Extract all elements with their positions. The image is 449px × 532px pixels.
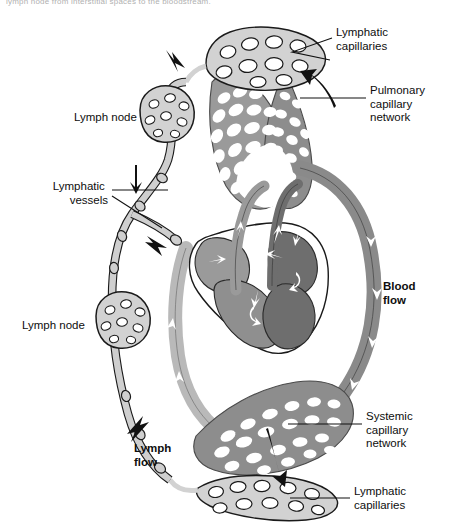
label-systemic-capillary-network: Systemic capillary network	[366, 410, 416, 449]
label-lymphatic-capillaries-top: Lymphatic capillaries	[336, 26, 391, 52]
label-lymph-node-lower: Lymph node	[22, 319, 85, 331]
lymph-node-lower-graphic	[96, 292, 150, 349]
label-lymphatic-vessels: Lymphatic vessels	[53, 180, 108, 206]
label-blood-flow: Blood flow	[383, 280, 419, 306]
label-lymphatic-capillaries-bottom: Lymphatic capillaries	[354, 485, 409, 511]
systemic-capillary-network-graphic	[194, 381, 354, 476]
label-lymph-flow: Lymph flow	[134, 442, 174, 468]
anatomy-diagram: Lymphatic capillaries Pulmonary capillar…	[0, 0, 449, 532]
lymph-node-upper-graphic	[140, 86, 194, 143]
lymphatic-capillaries-top-graphic	[186, 27, 325, 90]
label-pulmonary-capillary-network: Pulmonary capillary network	[370, 84, 428, 123]
label-lymph-node-upper: Lymph node	[74, 111, 137, 123]
